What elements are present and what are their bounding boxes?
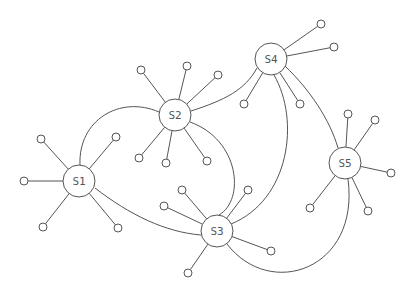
leaf-node-s1-2	[112, 133, 120, 141]
leaf-node-s5-3	[387, 169, 395, 177]
leaf-node-s2-4	[135, 154, 143, 162]
hub-s5: S5	[329, 147, 361, 179]
spoke-s5-3	[361, 166, 387, 172]
spoke-s3-3	[168, 208, 203, 224]
leaf-node-s4-2	[330, 43, 338, 51]
hub-s4: S4	[255, 43, 287, 75]
leaf-node-s4-3	[240, 100, 248, 108]
leaf-node-s1-3	[20, 177, 28, 185]
spoke-s4-1	[284, 26, 318, 50]
leaf-node-s3-5	[184, 269, 192, 277]
leaf-node-s2-5	[162, 159, 170, 167]
spoke-s1-5	[89, 193, 115, 225]
spoke-s2-3	[187, 78, 215, 104]
hub-label: S1	[72, 175, 85, 188]
leaf-node-s5-1	[344, 110, 352, 118]
hub-s2: S2	[159, 99, 191, 131]
spoke-s5-5	[352, 177, 366, 207]
leaf-node-s4-4	[296, 100, 304, 108]
hub-label: S2	[168, 109, 181, 122]
hub-s1: S1	[63, 165, 95, 197]
spoke-s1-2	[89, 140, 113, 169]
spoke-s1-4	[45, 194, 69, 224]
spoke-s3-2	[227, 193, 246, 218]
spoke-s2-4	[142, 127, 165, 155]
spoke-s4-2	[287, 48, 330, 56]
spoke-s1-1	[44, 142, 69, 169]
leaf-node-s2-1	[137, 66, 145, 74]
spoke-s2-6	[184, 128, 205, 158]
leaf-node-s5-2	[371, 116, 379, 124]
leaf-node-s2-6	[203, 157, 211, 165]
leaf-node-s3-3	[160, 202, 168, 210]
leaf-node-s5-5	[364, 207, 372, 215]
edge-s2-s3	[190, 122, 234, 215]
spoke-s2-5	[167, 131, 172, 159]
leaf-node-s3-4	[267, 247, 275, 255]
edge-s1-s3	[95, 188, 201, 235]
spoke-s3-4	[232, 237, 267, 250]
spoke-s3-1	[185, 193, 207, 219]
hub-label: S5	[338, 157, 351, 170]
leaf-node-s1-1	[37, 135, 45, 143]
spoke-s5-1	[346, 118, 348, 147]
leaf-node-s5-4	[306, 204, 314, 212]
leaf-node-s3-1	[178, 186, 186, 194]
hub-s3: S3	[201, 215, 233, 247]
spoke-s5-4	[312, 176, 335, 205]
leaf-node-s4-1	[317, 20, 325, 28]
leaf-node-s1-4	[39, 223, 47, 231]
network-diagram: S1S2S3S4S5	[0, 0, 416, 297]
edge-s4-s5	[285, 66, 338, 148]
leaf-node-s3-2	[244, 186, 252, 194]
hub-label: S3	[210, 225, 223, 238]
leaf-node-s2-2	[183, 62, 191, 70]
spoke-s2-2	[179, 70, 186, 100]
spoke-s2-1	[143, 73, 165, 102]
spoke-s4-3	[246, 73, 263, 101]
spoke-s5-2	[354, 123, 373, 150]
leaf-node-s2-3	[214, 71, 222, 79]
hub-nodes: S1S2S3S4S5	[63, 43, 361, 247]
hub-label: S4	[264, 53, 278, 66]
spoke-s3-5	[190, 244, 208, 270]
leaf-node-s1-5	[114, 224, 122, 232]
